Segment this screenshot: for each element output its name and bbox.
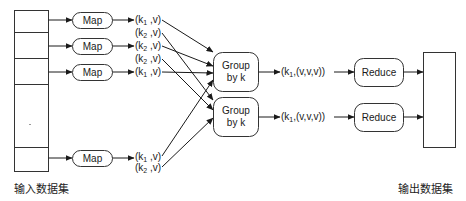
- group-label-line2: by k: [227, 72, 245, 84]
- grouped-values: ,(v,v,v)): [293, 66, 325, 77]
- map-to-pair-arrows: [113, 20, 135, 158]
- group-label-line1: Group: [222, 105, 250, 117]
- group-label-line2: by k: [227, 117, 245, 129]
- pair-value: ,v): [147, 66, 161, 77]
- map-label-3: Map: [72, 64, 113, 81]
- shuffle-arrows: [162, 20, 213, 167]
- pair-value: ,v): [147, 53, 161, 64]
- pair-label-3: (k2 ,v): [135, 40, 161, 54]
- reduce-label-1: Reduce: [354, 58, 404, 87]
- map-label-2: Map: [72, 38, 113, 55]
- reduce-label-2: Reduce: [354, 103, 404, 132]
- output-dataset-box: [424, 53, 456, 148]
- reduce-to-output-arrows: [404, 72, 424, 117]
- pair-value: ,v): [147, 14, 161, 25]
- map-label-1: Map: [72, 12, 113, 29]
- grouped-label-1: (k1,(v,v,v)): [281, 66, 325, 80]
- input-to-map-arrows: [49, 20, 73, 158]
- pair-value: ,v): [147, 27, 161, 38]
- pair-value: ,v): [147, 151, 161, 162]
- group-label-line1: Group: [222, 60, 250, 72]
- input-dataset-caption: 输入数据集: [14, 180, 69, 196]
- input-dataset-stack: [15, 11, 49, 172]
- pair-value: ,v): [147, 40, 161, 51]
- pair-value: ,v): [147, 162, 161, 173]
- pair-label-1: (k1 ,v): [135, 14, 161, 28]
- pair-label-7: (k2 ,v): [135, 162, 161, 176]
- output-dataset-caption: 输出数据集: [398, 180, 453, 196]
- pair-label-4: (k2 ,v): [135, 53, 161, 67]
- group-label-2: Group by k: [213, 97, 259, 137]
- map-label-4: Map: [72, 150, 113, 167]
- pair-label-2: (k2 ,v): [135, 27, 161, 41]
- grouped-label-2: (k1,(v,v,v)): [281, 111, 325, 125]
- pair-label-5: (k1 ,v): [135, 66, 161, 80]
- group-label-1: Group by k: [213, 52, 259, 92]
- grouped-values: ,(v,v,v)): [293, 111, 325, 122]
